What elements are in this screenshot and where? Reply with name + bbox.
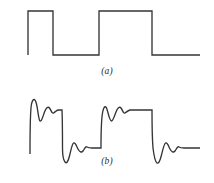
panel-ideal-square-wave: (a)	[0, 0, 214, 92]
panel-a-caption: (a)	[0, 66, 214, 77]
ringing-square-wave-plot	[0, 92, 214, 183]
panel-b-caption: (b)	[0, 156, 214, 167]
ringing-square-wave-trace	[30, 100, 200, 164]
ideal-square-wave-plot	[0, 0, 214, 92]
ideal-square-wave-trace	[28, 11, 200, 55]
panel-ringing-square-wave: (b)	[0, 92, 214, 183]
figure-root: (a) (b)	[0, 0, 214, 183]
